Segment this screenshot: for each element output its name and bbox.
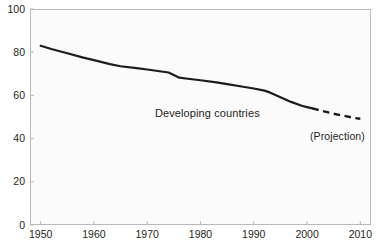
series-line-historical <box>41 46 313 109</box>
x-axis-tick-label: 1960 <box>74 229 114 240</box>
y-axis-tick-label: 40 <box>0 133 25 144</box>
y-axis-ticks <box>30 9 34 225</box>
y-axis-tick-label: 100 <box>0 4 25 15</box>
projection-annotation: (Projection) <box>310 130 365 142</box>
chart-figure: 100806040200 195019601970198019902000201… <box>0 0 382 249</box>
y-axis-tick-label: 20 <box>0 176 25 187</box>
x-axis-tick-label: 1990 <box>234 229 274 240</box>
x-axis-ticks <box>41 221 361 225</box>
y-axis-tick-label: 60 <box>0 90 25 101</box>
series-line-projection <box>312 108 360 118</box>
x-axis-tick-label: 1980 <box>181 229 221 240</box>
series-annotation-developing-countries: Developing countries <box>155 107 260 119</box>
y-axis-tick-label: 80 <box>0 47 25 58</box>
x-axis-tick-label: 1970 <box>127 229 167 240</box>
chart-canvas <box>0 0 382 249</box>
x-axis-tick-label: 2000 <box>287 229 327 240</box>
x-axis-tick-label: 2010 <box>340 229 380 240</box>
x-axis-tick-label: 1950 <box>21 229 61 240</box>
